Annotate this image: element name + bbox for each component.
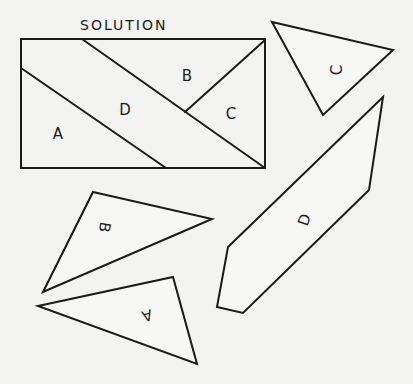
piece-a[interactable]: A [38, 277, 197, 364]
solution-label-b: B [182, 67, 192, 85]
solution-rectangle: ADBC [21, 39, 265, 168]
solution-title: SOLUTION [80, 17, 167, 33]
piece-c-label: C [328, 65, 346, 75]
loose-pieces: CDBA [38, 22, 393, 364]
piece-b-shape[interactable] [43, 192, 212, 292]
diagram-svg: SOLUTION ADBC CDBA [0, 0, 413, 384]
piece-c[interactable]: C [272, 22, 393, 115]
solution-outline [21, 39, 265, 168]
d-bc-cut [82, 39, 265, 168]
solution-label-c: C [226, 105, 236, 123]
piece-d[interactable]: D [217, 97, 383, 313]
solution-label-d: D [119, 101, 131, 119]
piece-b[interactable]: B [43, 192, 212, 292]
piece-d-shape[interactable] [217, 97, 383, 313]
solution-label-a: A [53, 125, 64, 143]
tangram-diagram: SOLUTION ADBC CDBA [0, 0, 413, 384]
b-c-cut [185, 40, 265, 112]
piece-a-shape[interactable] [38, 277, 197, 364]
